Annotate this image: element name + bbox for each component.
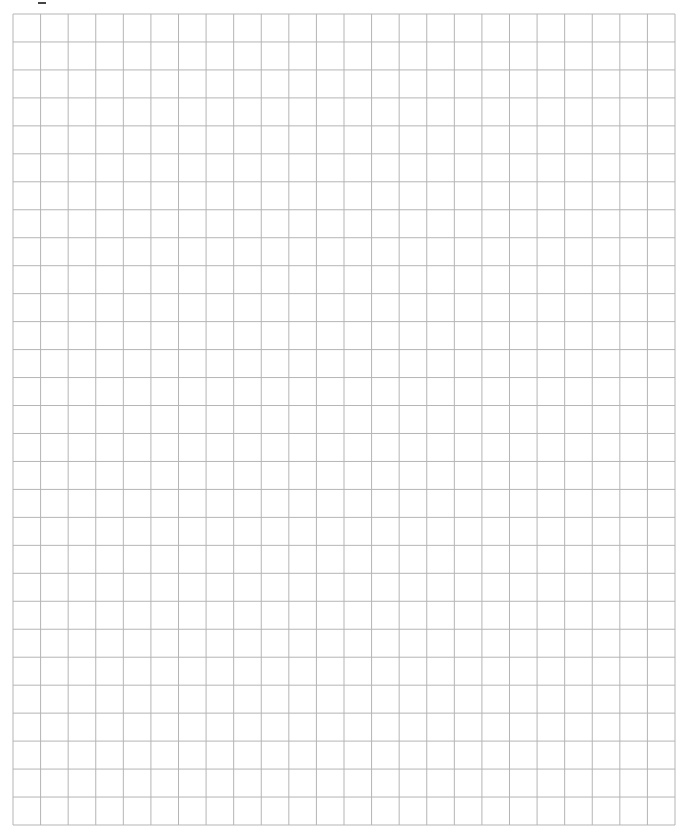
graph-paper-grid	[0, 0, 689, 834]
